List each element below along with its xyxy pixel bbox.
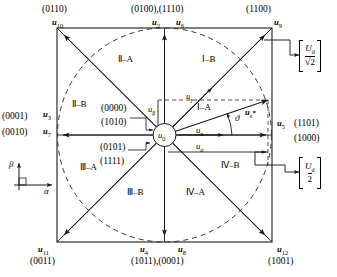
label-u3: u3 [43, 110, 51, 121]
sector-I-A: Ⅰ–A [197, 103, 211, 112]
label-u8: u8 [178, 245, 186, 256]
fraction-denominator: √2 [305, 56, 315, 68]
code-u3: (0001) [2, 112, 27, 122]
label-u6: u6 [176, 18, 184, 29]
label-u-beta: uβ [148, 105, 155, 116]
label-u5: u5 [277, 119, 285, 130]
sector-II-B: Ⅱ–B [72, 100, 87, 109]
code-u11: (0011) [30, 257, 55, 267]
code-center-0101: (0101) [100, 143, 125, 153]
label-us-ref: us* [245, 108, 256, 119]
label-u9: u9 [274, 18, 282, 29]
fraction-numerator: Ud [305, 44, 315, 55]
diagram-canvas [0, 0, 337, 277]
label-u11: u11 [38, 245, 49, 256]
label-u-x: ux [196, 126, 203, 137]
fraction-denominator-2: 2 [308, 173, 313, 184]
code-u7: (0010) [2, 128, 27, 138]
sector-III-A: Ⅲ–A [80, 163, 97, 172]
sector-II-A: Ⅱ–A [118, 55, 133, 64]
code-center-0000: (0000) [101, 104, 126, 114]
sector-IV-A: Ⅳ–A [186, 188, 205, 197]
code-center-1111: (1111) [100, 157, 124, 167]
figure-container: (0110) u10 (0100),(1110) u2 u6 (1100) u9… [0, 0, 337, 277]
angle-arc [227, 113, 232, 135]
axis-label-beta: β [9, 160, 13, 169]
label-u-alpha: uα [196, 142, 203, 153]
code-u10: (0110) [42, 5, 67, 15]
label-u12: u12 [277, 245, 288, 256]
fraction-numerator-2: Ud [305, 162, 315, 173]
sector-IV-B: Ⅳ–B [221, 161, 240, 170]
sector-III-B: Ⅲ–B [127, 188, 144, 197]
bracket-right-2 [317, 157, 321, 189]
code-u2-u6: (0100),(1110) [131, 5, 183, 15]
label-u10: u10 [52, 18, 63, 29]
code-u9: (1100) [246, 5, 271, 15]
annotation-ud-half: Ud 2 [299, 157, 321, 189]
label-u0: u0 [158, 131, 165, 142]
bracket-right [317, 40, 321, 72]
code-center-1010: (1010) [101, 118, 126, 128]
label-u7: u7 [43, 127, 51, 138]
label-u2: u2 [152, 18, 160, 29]
sector-I-B: Ⅰ–B [202, 55, 216, 64]
axis-label-alpha: α [44, 187, 49, 196]
code-u4-u8: (1011),(0001) [131, 257, 184, 267]
bracket-leader-lower [255, 152, 299, 172]
label-u-y: uy [186, 92, 193, 103]
leader-lines-center-codes [128, 118, 153, 150]
code-u5-b: (1000) [294, 134, 319, 144]
fraction-ud-sqrt2: Ud √2 [303, 43, 317, 69]
label-u4: u4 [140, 245, 148, 256]
annotation-ud-sqrt2: Ud √2 [299, 40, 321, 72]
code-u5-a: (1101) [294, 119, 319, 129]
label-angle-theta: ϑ [235, 114, 239, 123]
code-u12: (1001) [268, 257, 293, 267]
fraction-ud-2: Ud 2 [303, 161, 317, 186]
bracket-leader-upper [264, 40, 299, 55]
